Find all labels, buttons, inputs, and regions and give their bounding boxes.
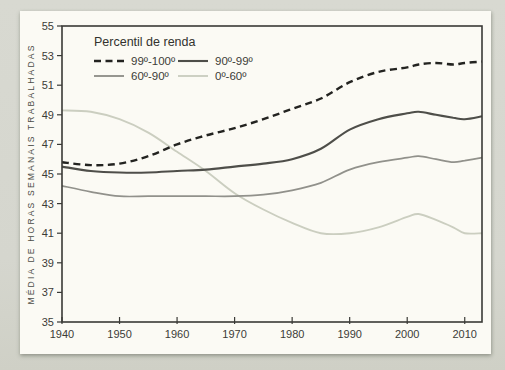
svg-text:1950: 1950	[107, 328, 131, 340]
scanned-page: { "page": { "background_color": "#d6d7cf…	[0, 0, 505, 370]
solid-line-icon	[94, 72, 124, 80]
legend-title: Percentil de renda	[94, 35, 253, 49]
svg-text:35: 35	[42, 316, 54, 328]
legend-item-label: 90º-99º	[215, 55, 253, 67]
svg-text:2010: 2010	[452, 328, 476, 340]
chart-card: 3537394143454749515355194019501960197019…	[20, 11, 491, 354]
svg-text:1960: 1960	[165, 328, 189, 340]
legend-item-label: 60º-90º	[131, 70, 169, 82]
svg-text:2000: 2000	[395, 328, 419, 340]
solid-line-icon	[178, 72, 208, 80]
legend-item: 0º-60º	[178, 70, 253, 82]
svg-text:51: 51	[42, 79, 54, 91]
chart-canvas: 3537394143454749515355194019501960197019…	[20, 11, 491, 354]
legend-item: 90º-99º	[178, 55, 253, 67]
svg-text:1940: 1940	[50, 328, 74, 340]
dashed-line-icon	[94, 57, 124, 65]
svg-text:1990: 1990	[337, 328, 361, 340]
svg-text:1970: 1970	[222, 328, 246, 340]
svg-text:1980: 1980	[280, 328, 304, 340]
svg-text:55: 55	[42, 20, 54, 32]
svg-text:37: 37	[42, 286, 54, 298]
legend-item-label: 0º-60º	[215, 70, 246, 82]
solid-line-icon	[178, 57, 208, 65]
legend: Percentil de renda 99º-100º 90º-99º 60º-…	[94, 35, 253, 82]
svg-text:45: 45	[42, 168, 54, 180]
svg-text:41: 41	[42, 227, 54, 239]
svg-text:53: 53	[42, 50, 54, 62]
legend-grid: 99º-100º 90º-99º 60º-90º 0º-60º	[94, 55, 253, 82]
y-axis-label: MÉDIA DE HORAS SEMANAIS TRABALHADAS	[26, 43, 36, 304]
svg-text:49: 49	[42, 109, 54, 121]
svg-text:39: 39	[42, 257, 54, 269]
legend-item: 60º-90º	[94, 70, 178, 82]
legend-item-label: 99º-100º	[131, 55, 175, 67]
legend-item: 99º-100º	[94, 55, 178, 67]
svg-text:47: 47	[42, 138, 54, 150]
svg-text:43: 43	[42, 198, 54, 210]
